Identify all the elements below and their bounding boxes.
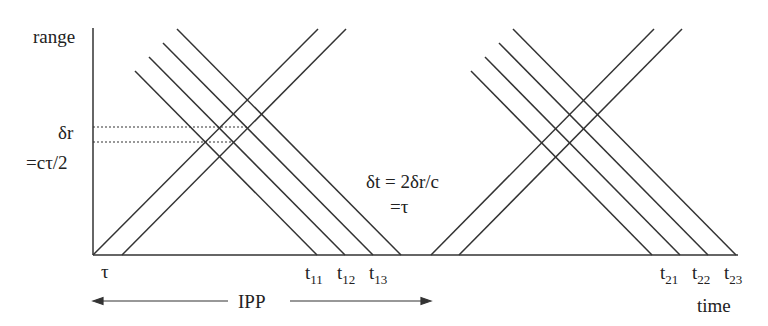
delta-t-equation: δt = 2δr/c (366, 172, 439, 191)
tau-tick-label: τ (101, 262, 109, 281)
ipp-arrow-right-head (421, 298, 431, 305)
echo2-line-2 (485, 57, 680, 255)
pulse2-leading-edge (431, 29, 654, 255)
ipp-arrow-left-head (93, 298, 103, 305)
ipp-label: IPP (238, 292, 265, 311)
pulse2-trailing-edge (459, 29, 682, 255)
echo1-line-2 (149, 57, 345, 255)
delta-r-equation: =cτ/2 (26, 153, 68, 172)
echo1-line-3 (163, 43, 373, 255)
echo2-line-4 (513, 29, 736, 255)
tick-t21: t21 (660, 263, 678, 286)
delta-r-label: δr (58, 123, 73, 142)
delta-t-tau: =τ (390, 197, 408, 216)
echo1-line-1 (135, 71, 317, 255)
echo2-line-1 (471, 71, 652, 255)
time-axis-label: time (697, 296, 731, 315)
tick-t22: t22 (692, 263, 710, 286)
range-axis-label: range (33, 27, 75, 46)
tick-t13: t13 (369, 263, 387, 286)
tick-t11: t11 (305, 263, 323, 286)
tick-t12: t12 (337, 263, 355, 286)
tick-t23: t23 (724, 263, 742, 286)
echo2-line-3 (499, 43, 708, 255)
